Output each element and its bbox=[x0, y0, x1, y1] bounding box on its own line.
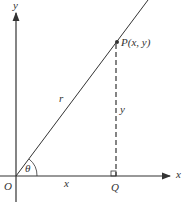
radius-label: r bbox=[59, 93, 63, 104]
right-angle-marker bbox=[111, 171, 116, 176]
x-axis-label: x bbox=[176, 169, 181, 180]
point-q-label: Q bbox=[111, 182, 119, 193]
polar-coordinates-diagram: y x O P(x, y) Q r x y θ bbox=[0, 0, 189, 208]
radius-line bbox=[16, 0, 148, 176]
horizontal-x-label: x bbox=[64, 178, 69, 189]
point-p-dot bbox=[115, 40, 119, 44]
y-axis-label: y bbox=[13, 0, 18, 11]
theta-label: θ bbox=[25, 163, 30, 174]
diagram-canvas bbox=[0, 0, 189, 208]
point-p-label: P(x, y) bbox=[121, 37, 150, 48]
vertical-y-label: y bbox=[120, 104, 125, 115]
origin-label: O bbox=[4, 181, 12, 192]
